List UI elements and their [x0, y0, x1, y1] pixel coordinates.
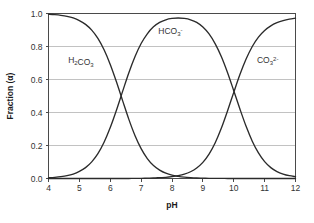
y-axis-tick-labels: 0.00.20.40.60.81.0	[31, 9, 43, 184]
x-tick-label: 5	[77, 183, 82, 193]
x-tick-label: 8	[170, 183, 175, 193]
x-axis-title: pH	[166, 200, 177, 210]
x-tick-label: 7	[139, 183, 144, 193]
series-label: H2CO3	[68, 55, 94, 68]
x-tick-label: 10	[229, 183, 239, 193]
y-tick-label: 0.8	[31, 42, 43, 52]
y-tick-label: 1.0	[31, 9, 43, 19]
y-axis-title: Fraction (α)	[5, 72, 15, 119]
chart-canvas: 456789101112 0.00.20.40.60.81.0 H2CO3HCO…	[0, 0, 314, 223]
data-curves	[49, 14, 296, 178]
y-tick-label: 0.4	[31, 108, 43, 118]
x-axis-tick-labels: 456789101112	[46, 183, 300, 193]
x-tick-label: 12	[291, 183, 301, 193]
y-tick-label: 0.0	[31, 174, 43, 184]
series-curve	[49, 18, 296, 178]
x-tick-label: 6	[108, 183, 113, 193]
speciation-chart: 456789101112 0.00.20.40.60.81.0 H2CO3HCO…	[0, 0, 314, 223]
x-tick-label: 9	[201, 183, 206, 193]
y-tick-label: 0.6	[31, 75, 43, 85]
series-label: CO32-	[257, 55, 278, 66]
series-label: HCO3-	[158, 26, 182, 37]
x-tick-label: 4	[46, 183, 51, 193]
series-annotations: H2CO3HCO3-CO32-	[68, 26, 278, 68]
y-tick-label: 0.2	[31, 141, 43, 151]
x-tick-label: 11	[260, 183, 269, 193]
series-curve	[49, 18, 296, 178]
